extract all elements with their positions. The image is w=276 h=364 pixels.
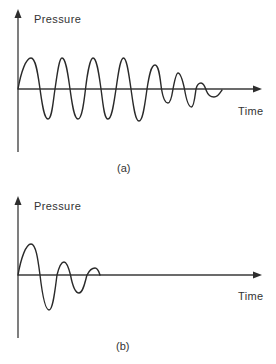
y-axis-label: Pressure: [34, 201, 81, 212]
y-axis-arrow-icon: [15, 9, 22, 18]
panel-a-plot: [0, 0, 276, 182]
panel-a-sustained-oscillation: Pressure Time (a): [0, 0, 276, 182]
panel-caption: (b): [116, 341, 129, 352]
x-axis-label: Time: [238, 106, 264, 117]
x-axis-arrow-icon: [253, 272, 262, 279]
y-axis-label: Pressure: [34, 14, 81, 25]
panel-caption: (a): [117, 163, 130, 174]
x-axis-arrow-icon: [253, 86, 262, 93]
x-axis-label: Time: [238, 291, 264, 302]
y-axis-arrow-icon: [15, 196, 22, 205]
panel-b-damped-oscillation: Pressure Time (b): [0, 182, 276, 364]
pressure-waveform-b: [18, 244, 100, 310]
